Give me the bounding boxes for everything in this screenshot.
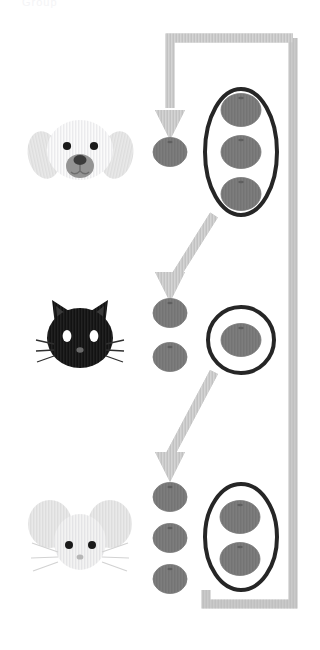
group-ring-dog bbox=[205, 89, 277, 215]
loose-counters-dog bbox=[153, 138, 187, 167]
mouse-face-icon bbox=[28, 500, 132, 571]
arrow-to-mouse-head-hatch bbox=[155, 452, 185, 482]
group-ring-cat bbox=[208, 307, 274, 373]
diagram-svg bbox=[0, 0, 320, 650]
row-dog bbox=[23, 89, 277, 215]
cat-face-icon bbox=[36, 300, 124, 368]
loose-counters-mouse bbox=[153, 483, 187, 594]
arrow-to-cat-head-hatch bbox=[155, 272, 185, 302]
row-cat bbox=[36, 299, 274, 374]
group-ring-mouse bbox=[205, 484, 277, 590]
diagram-canvas: Group bbox=[0, 0, 320, 650]
arrow-to-dog-head-hatch bbox=[155, 110, 185, 140]
grouped-counters-dog bbox=[221, 94, 261, 211]
row-mouse bbox=[28, 483, 277, 594]
dog-face-icon bbox=[23, 120, 137, 182]
loose-counters-cat bbox=[153, 299, 187, 372]
arrow-to-mouse-stem-hatch bbox=[170, 372, 214, 455]
